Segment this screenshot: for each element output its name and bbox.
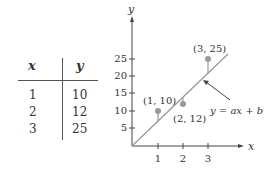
point-label-2: (2, 12) bbox=[173, 113, 206, 124]
x-axis-label: x bbox=[248, 140, 255, 153]
x-axis-arrow-icon bbox=[238, 144, 244, 148]
point-label-1: (1, 10) bbox=[143, 95, 176, 106]
y-tick-labels: 5 10 15 20 25 bbox=[114, 53, 127, 133]
svg-text:10: 10 bbox=[114, 105, 127, 116]
x-tick-labels: 1 2 3 bbox=[155, 153, 211, 164]
svg-text:20: 20 bbox=[114, 70, 127, 81]
equation-label: y = ax + b bbox=[209, 105, 263, 116]
y-axis-arrow-icon bbox=[130, 16, 134, 22]
point-label-3: (3, 25) bbox=[193, 43, 226, 54]
svg-text:3: 3 bbox=[205, 153, 211, 164]
y-axis-label: y bbox=[127, 3, 135, 16]
data-point-1 bbox=[155, 108, 161, 114]
svg-text:2: 2 bbox=[180, 153, 186, 164]
svg-text:1: 1 bbox=[155, 153, 161, 164]
svg-text:5: 5 bbox=[121, 122, 127, 133]
data-point-2 bbox=[180, 101, 186, 107]
scatter-chart: y x 5 10 15 20 25 1 2 3 (1, 10) (2, 12) bbox=[0, 0, 270, 172]
data-point-3 bbox=[205, 56, 211, 62]
annotation-arrow-line bbox=[206, 82, 230, 100]
svg-text:25: 25 bbox=[114, 53, 127, 64]
annotation-arrow-icon bbox=[203, 80, 209, 85]
svg-text:15: 15 bbox=[114, 87, 127, 98]
